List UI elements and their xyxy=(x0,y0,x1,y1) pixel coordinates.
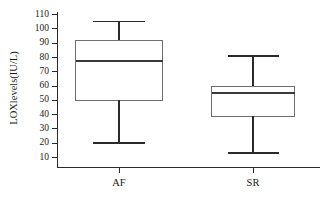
y-tick-label-20: 20 xyxy=(40,137,50,147)
y-tick-label-50: 50 xyxy=(40,94,50,104)
figure-caption xyxy=(0,191,326,202)
y-tick-label-40: 40 xyxy=(40,109,50,119)
y-tick-label-90: 90 xyxy=(40,37,50,47)
y-tick-label-70: 70 xyxy=(40,66,50,76)
x-axis-label-af: AF xyxy=(112,177,126,188)
boxplot-figure: 110 100 90 80 70 60 50 40 30 20 10 LOXle… xyxy=(0,0,326,202)
y-axis-title: LOXlevels(IU/L) xyxy=(8,51,20,125)
y-tick-label-100: 100 xyxy=(35,23,50,33)
y-tick-label-60: 60 xyxy=(40,80,50,90)
box-group-sr xyxy=(212,56,295,153)
af-box xyxy=(76,41,163,100)
y-tick-label-30: 30 xyxy=(40,123,50,133)
y-tick-labels: 110 100 90 80 70 60 50 40 30 20 10 xyxy=(35,9,50,162)
box-group-af xyxy=(76,21,163,143)
y-tick-marks xyxy=(52,15,58,158)
y-tick-label-10: 10 xyxy=(40,152,50,162)
y-tick-label-110: 110 xyxy=(35,9,49,19)
x-tick-marks xyxy=(119,168,253,174)
x-axis-label-sr: SR xyxy=(247,177,260,188)
boxplot-canvas: 110 100 90 80 70 60 50 40 30 20 10 LOXle… xyxy=(0,0,326,202)
sr-box xyxy=(212,86,295,116)
y-tick-label-80: 80 xyxy=(40,52,50,62)
